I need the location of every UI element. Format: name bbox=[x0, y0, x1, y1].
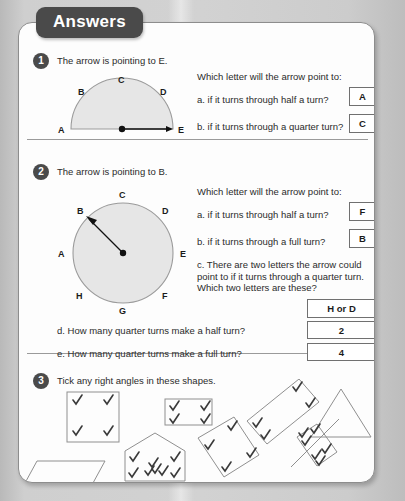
dial-label-D: D bbox=[162, 206, 169, 216]
question-2-item-e-label: e. How many quarter turns make a full tu… bbox=[57, 348, 242, 360]
shape-tilted-rectangle-large bbox=[247, 379, 319, 444]
question-2-item-a-answer[interactable]: F bbox=[349, 202, 375, 221]
tick-mark bbox=[104, 395, 113, 404]
dial-label-F: F bbox=[162, 291, 168, 301]
dial-label-D: D bbox=[160, 87, 167, 97]
question-1-item-a-answer[interactable]: A bbox=[349, 87, 375, 106]
semicircle-dial-diagram: A B C D E bbox=[47, 73, 197, 139]
tick-marks-group bbox=[73, 382, 331, 477]
tick-mark bbox=[159, 466, 168, 475]
question-2-item-b-label: b. if it turns through a full turn? bbox=[197, 236, 325, 248]
tick-mark bbox=[302, 436, 311, 445]
question-2-item-c-answer[interactable]: H or D bbox=[307, 299, 375, 318]
shapes-svg bbox=[19, 379, 375, 483]
semicircle-dial-svg: A B C D E bbox=[47, 73, 197, 139]
tick-mark bbox=[171, 468, 180, 477]
dial-label-B: B bbox=[78, 87, 85, 97]
dial-label-C: C bbox=[118, 75, 125, 85]
question-2-item-b-answer[interactable]: B bbox=[349, 229, 375, 248]
tick-mark bbox=[171, 452, 180, 461]
tick-mark bbox=[222, 462, 231, 471]
dial-center-dot bbox=[120, 250, 126, 256]
tick-mark bbox=[322, 444, 331, 453]
tick-mark bbox=[201, 414, 210, 423]
question-2-prompt: Which letter will the arrow point to: bbox=[197, 186, 342, 198]
tick-mark bbox=[306, 398, 315, 407]
dial-label-E: E bbox=[178, 125, 184, 135]
dial-center-dot bbox=[119, 126, 125, 132]
semicircle-body bbox=[71, 78, 173, 129]
dial-label-A: A bbox=[58, 125, 65, 135]
tick-mark bbox=[316, 456, 325, 465]
tick-mark bbox=[170, 414, 179, 423]
dial-label-E: E bbox=[180, 249, 186, 259]
shape-parallelogram bbox=[25, 461, 105, 483]
question-2-item-d-answer[interactable]: 2 bbox=[307, 321, 375, 339]
question-1-item-a-label: a. if it turns through half a turn? bbox=[197, 94, 329, 106]
tick-mark bbox=[73, 426, 82, 435]
tick-mark bbox=[149, 458, 158, 467]
question-2-item-c-label: c. There are two letters the arrow could… bbox=[197, 259, 365, 294]
question-1-item-b-label: b. if it turns through a quarter turn? bbox=[197, 121, 343, 133]
answers-tab: Answers bbox=[36, 7, 143, 38]
tick-mark bbox=[170, 401, 179, 410]
dial-label-A: A bbox=[58, 249, 65, 259]
shapes-canvas bbox=[19, 379, 375, 483]
tick-mark bbox=[73, 395, 82, 404]
dial-label-B: B bbox=[77, 206, 84, 216]
tick-mark bbox=[104, 426, 113, 435]
tick-mark bbox=[261, 430, 270, 439]
question-number-2: 2 bbox=[33, 164, 49, 180]
tick-mark bbox=[247, 448, 256, 457]
tick-mark bbox=[228, 421, 237, 430]
dial-label-G: G bbox=[119, 306, 126, 316]
question-1-prompt: Which letter will the arrow point to: bbox=[197, 71, 342, 83]
tick-mark bbox=[312, 450, 321, 459]
dial-label-C: C bbox=[119, 190, 126, 200]
section-divider-1 bbox=[27, 139, 368, 140]
dial-label-H: H bbox=[76, 291, 83, 301]
question-1-stem: The arrow is pointing to E. bbox=[57, 55, 167, 66]
answers-card: 1 The arrow is pointing to E. A B C D E … bbox=[18, 22, 375, 483]
question-2-stem: The arrow is pointing to B. bbox=[57, 166, 167, 177]
question-1-item-b-answer[interactable]: C bbox=[349, 114, 375, 133]
tick-mark bbox=[205, 440, 214, 449]
question-number-1: 1 bbox=[33, 53, 49, 69]
question-2-item-d-label: d. How many quarter turns make a half tu… bbox=[57, 325, 245, 337]
tick-mark bbox=[130, 452, 139, 461]
circle-dial-svg: A B C D E F G H bbox=[47, 187, 199, 317]
tick-mark bbox=[253, 418, 262, 427]
circle-dial-diagram: A B C D E F G H bbox=[47, 187, 199, 317]
shape-triangle bbox=[311, 389, 371, 437]
tick-mark bbox=[129, 468, 138, 477]
question-2-item-a-label: a. if it turns through half a turn? bbox=[197, 209, 329, 221]
question-2-item-e-answer[interactable]: 4 bbox=[307, 343, 375, 361]
tick-mark bbox=[201, 401, 210, 410]
